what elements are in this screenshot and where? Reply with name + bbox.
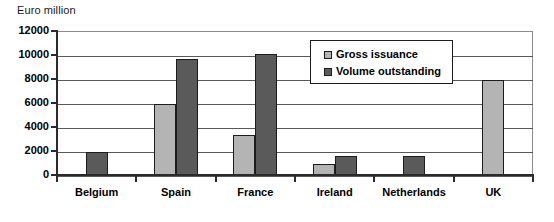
y-axis-tick	[51, 102, 56, 104]
legend-item: Volume outstanding	[324, 63, 452, 80]
x-axis-category-label: Netherlands	[374, 186, 453, 198]
y-axis-tick-label: 4000	[25, 121, 49, 132]
bar	[255, 54, 277, 176]
bar	[233, 135, 255, 176]
x-axis-category-label: Ireland	[295, 186, 374, 198]
y-axis-tick-label: 10000	[18, 49, 49, 60]
gridline	[57, 128, 533, 129]
legend-item: Gross issuance	[324, 46, 452, 63]
y-axis-tick-label: 8000	[25, 73, 49, 84]
gridline	[57, 80, 533, 81]
x-axis-category-label: Spain	[136, 186, 215, 198]
y-axis-tick	[51, 54, 56, 56]
x-axis-category-label: France	[216, 186, 295, 198]
x-axis-tick	[453, 176, 455, 182]
y-axis-tick-label: 12000	[18, 25, 49, 36]
y-axis-tick-label: 2000	[25, 145, 49, 156]
y-axis-tick-label: 0	[43, 169, 49, 180]
x-axis-category-label: UK	[454, 186, 533, 198]
y-axis-tick-labels: 020004000600080001000012000	[0, 0, 49, 222]
gridline	[57, 56, 533, 57]
bar	[86, 152, 108, 176]
x-axis-tick	[135, 176, 137, 182]
bar	[176, 59, 198, 176]
x-axis-tick	[532, 176, 534, 182]
x-axis-tick	[294, 176, 296, 182]
y-axis-tick-label: 6000	[25, 97, 49, 108]
plot-area	[57, 31, 533, 175]
x-axis-tick	[215, 176, 217, 182]
y-axis-tick	[51, 30, 56, 32]
bar	[403, 156, 425, 176]
legend-item-label: Gross issuance	[336, 49, 418, 60]
gridline	[57, 152, 533, 153]
bar	[482, 80, 504, 176]
legend-item-label: Volume outstanding	[336, 66, 441, 77]
bar	[335, 156, 357, 176]
y-axis-spine	[56, 30, 58, 177]
x-axis-tick	[373, 176, 375, 182]
x-axis-tick	[56, 176, 58, 182]
legend: Gross issuance Volume outstanding	[310, 40, 453, 84]
bar-chart: Euro million 020004000600080001000012000…	[0, 0, 554, 222]
y-axis-tick	[51, 78, 56, 80]
bar	[154, 104, 176, 176]
y-axis-tick	[51, 126, 56, 128]
x-axis-category-label: Belgium	[57, 186, 136, 198]
gridline	[57, 104, 533, 105]
y-axis-tick	[51, 150, 56, 152]
legend-swatch-gross-issuance-icon	[324, 51, 332, 59]
legend-swatch-volume-outstanding-icon	[324, 68, 332, 76]
